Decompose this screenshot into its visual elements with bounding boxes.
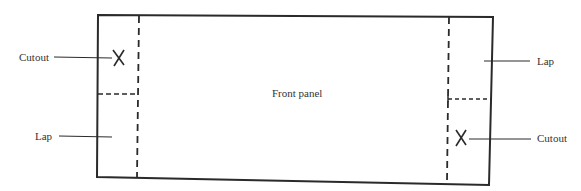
left-fold-line: [137, 16, 139, 177]
panel-outline: [97, 15, 493, 185]
front-panel-label: Front panel: [272, 88, 322, 99]
right-cutout-label: Cutout: [537, 133, 567, 144]
right-lap-label: Lap: [537, 56, 554, 67]
right-cutout-x-icon: [456, 130, 466, 146]
left-cutout-leader: [54, 57, 112, 58]
left-cutout-label: Cutout: [19, 52, 49, 63]
left-lap-leader: [59, 136, 112, 137]
left-lap-label: Lap: [35, 131, 52, 142]
left-cutout-x-icon: [113, 50, 124, 66]
